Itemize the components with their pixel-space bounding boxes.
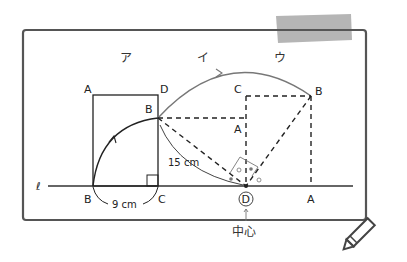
label-a-mid: A: [234, 123, 242, 136]
measure-bc: 9 cm: [112, 199, 137, 210]
header-u: ウ: [274, 51, 286, 65]
label-a-left: A: [84, 83, 92, 96]
header-a: ア: [120, 51, 132, 65]
angle-dot: [229, 177, 233, 181]
geometry-diagram: ア イ ウ ℓ A D B B C 9 cm C B A A 15 cm D 中: [0, 0, 407, 262]
label-a-bottom: A: [307, 193, 315, 206]
radius-arc: [160, 125, 243, 185]
angle-mark-box: [230, 157, 258, 176]
measure-radius: 15 cm: [168, 157, 199, 168]
label-c-left: C: [158, 193, 166, 206]
board-frame: [23, 30, 366, 220]
line-l-label: ℓ: [35, 180, 41, 193]
angle-circle-2: [257, 178, 261, 182]
center-point: [244, 184, 248, 188]
pencil-icon: [340, 218, 375, 253]
label-d-left: D: [160, 83, 168, 96]
header-i: イ: [197, 51, 209, 65]
square-right-dashed: [158, 96, 311, 186]
label-b-moved: B: [145, 103, 153, 116]
brace-9cm-right: [143, 187, 158, 204]
label-b-right: B: [315, 85, 323, 98]
right-angle-mark: [147, 175, 158, 186]
center-label: D: [242, 193, 250, 206]
tape-decoration: [276, 14, 352, 43]
angle-dot-2: [249, 167, 253, 171]
brace-9cm: [93, 187, 108, 204]
label-b-bottom: B: [84, 193, 92, 206]
label-c-right: C: [234, 83, 242, 96]
center-caption: 中心: [232, 224, 256, 239]
arc-rotation-1: [93, 118, 158, 186]
angle-circle: [237, 168, 241, 172]
